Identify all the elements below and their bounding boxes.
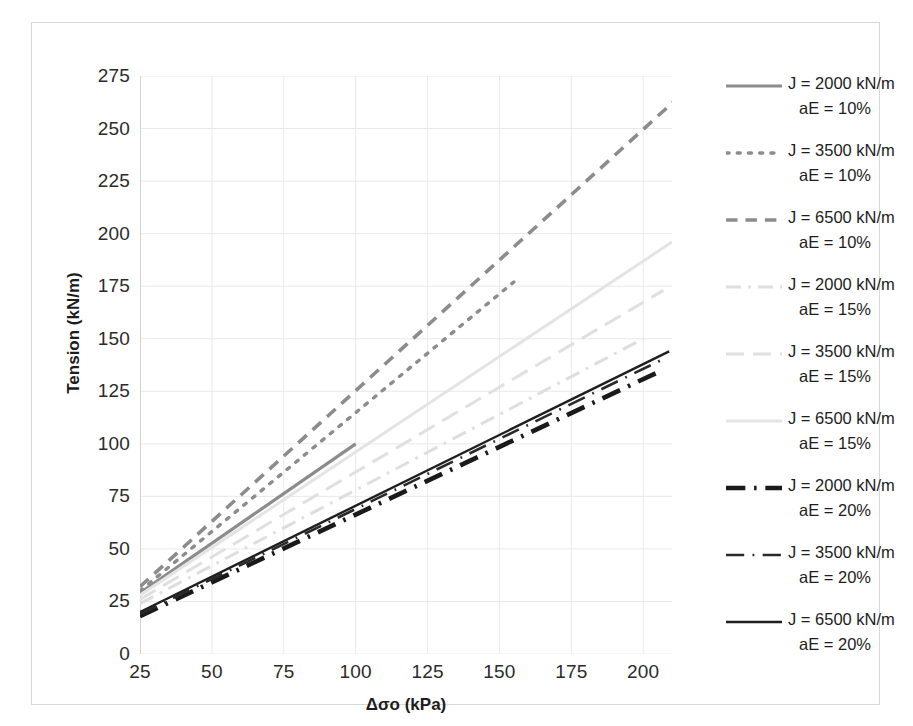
legend-label-line1: J = 2000 kN/m [788, 74, 895, 92]
series-line [140, 242, 672, 595]
legend-swatch-svg [726, 79, 782, 93]
legend-item[interactable]: J = 3500 kN/maE = 15% [726, 339, 906, 406]
legend-swatch-svg [726, 548, 782, 562]
x-axis-title: Δσo (kPa) [140, 695, 672, 715]
legend-swatch-svg [726, 481, 782, 495]
y-tick-label: 50 [82, 538, 130, 560]
legend-label-line2: aE = 15% [788, 364, 895, 389]
figure-frame: Tension (kN/m) 2752502252001751501251007… [31, 22, 880, 705]
legend-label-line2: aE = 15% [788, 297, 895, 322]
legend-swatch-svg [726, 414, 782, 428]
y-tick-label: 150 [82, 328, 130, 350]
legend-label: J = 6500 kN/maE = 10% [788, 205, 895, 255]
legend-label-line2: aE = 10% [788, 96, 895, 121]
legend-label-line1: J = 3500 kN/m [788, 543, 895, 561]
legend-label: J = 2000 kN/maE = 10% [788, 71, 895, 121]
legend-line-swatch [726, 414, 782, 428]
legend-item[interactable]: J = 2000 kN/maE = 10% [726, 71, 906, 138]
legend-swatch-svg [726, 280, 782, 294]
series-line [140, 351, 669, 612]
legend-item[interactable]: J = 6500 kN/maE = 10% [726, 205, 906, 272]
legend-label-line1: J = 6500 kN/m [788, 610, 895, 628]
legend-line-swatch [726, 615, 782, 629]
legend-label-line2: aE = 10% [788, 163, 895, 188]
series-line [140, 358, 666, 614]
legend-label: J = 6500 kN/maE = 20% [788, 607, 895, 657]
x-tick-label: 150 [483, 661, 515, 683]
legend-item[interactable]: J = 3500 kN/maE = 20% [726, 540, 906, 607]
legend-swatch-svg [726, 615, 782, 629]
chart-legend: J = 2000 kN/maE = 10%J = 3500 kN/maE = 1… [726, 71, 906, 674]
legend-line-swatch [726, 347, 782, 361]
legend-item[interactable]: J = 6500 kN/maE = 15% [726, 406, 906, 473]
y-tick-label: 125 [82, 380, 130, 402]
legend-label-line2: aE = 20% [788, 498, 895, 523]
x-tick-label: 25 [129, 661, 151, 683]
y-tick-label: 75 [82, 485, 130, 507]
legend-item[interactable]: J = 2000 kN/maE = 20% [726, 473, 906, 540]
legend-label-line2: aE = 15% [788, 431, 895, 456]
x-tick-label: 75 [273, 661, 295, 683]
y-axis-tick-labels: 2752502252001751501251007550250 [78, 76, 130, 654]
plot-svg [140, 76, 672, 654]
legend-label: J = 3500 kN/maE = 20% [788, 540, 895, 590]
legend-line-swatch [726, 481, 782, 495]
series-line [140, 82, 672, 586]
legend-label: J = 3500 kN/maE = 10% [788, 138, 895, 188]
y-tick-label: 225 [82, 170, 130, 192]
y-tick-label: 250 [82, 118, 130, 140]
chart-screenshot: Tension (kN/m) 2752502252001751501251007… [0, 0, 913, 726]
legend-line-swatch [726, 146, 782, 160]
y-tick-label: 175 [82, 275, 130, 297]
y-tick-label: 275 [82, 65, 130, 87]
series-line [140, 290, 663, 599]
legend-line-swatch [726, 548, 782, 562]
legend-item[interactable]: J = 6500 kN/maE = 20% [726, 607, 906, 674]
x-tick-label: 200 [627, 661, 659, 683]
legend-label-line2: aE = 20% [788, 632, 895, 657]
y-tick-label: 25 [82, 590, 130, 612]
legend-line-swatch [726, 79, 782, 93]
x-tick-label: 100 [340, 661, 372, 683]
legend-label: J = 3500 kN/maE = 15% [788, 339, 895, 389]
legend-item[interactable]: J = 2000 kN/maE = 15% [726, 272, 906, 339]
legend-line-swatch [726, 213, 782, 227]
legend-line-swatch [726, 280, 782, 294]
legend-label-line1: J = 2000 kN/m [788, 476, 895, 494]
legend-swatch-svg [726, 347, 782, 361]
legend-label-line1: J = 2000 kN/m [788, 275, 895, 293]
legend-label-line2: aE = 20% [788, 565, 895, 590]
legend-label-line1: J = 6500 kN/m [788, 208, 895, 226]
x-tick-label: 125 [411, 661, 443, 683]
y-tick-label: 0 [82, 643, 130, 665]
legend-swatch-svg [726, 213, 782, 227]
y-tick-label: 100 [82, 433, 130, 455]
legend-label-line1: J = 6500 kN/m [788, 409, 895, 427]
series-line [140, 372, 658, 616]
x-tick-label: 50 [201, 661, 223, 683]
y-tick-label: 200 [82, 223, 130, 245]
x-tick-label: 175 [555, 661, 587, 683]
x-axis-tick-labels: 255075100125150175200 [140, 661, 672, 689]
series-line [140, 444, 356, 593]
legend-item[interactable]: J = 3500 kN/maE = 10% [726, 138, 906, 205]
plot-area [140, 76, 672, 654]
legend-label-line1: J = 3500 kN/m [788, 342, 895, 360]
series-line [140, 339, 643, 604]
legend-swatch-svg [726, 146, 782, 160]
legend-label: J = 2000 kN/maE = 20% [788, 473, 895, 523]
legend-label: J = 6500 kN/maE = 15% [788, 406, 895, 456]
legend-label-line2: aE = 10% [788, 230, 895, 255]
legend-label-line1: J = 3500 kN/m [788, 141, 895, 159]
legend-label: J = 2000 kN/maE = 15% [788, 272, 895, 322]
